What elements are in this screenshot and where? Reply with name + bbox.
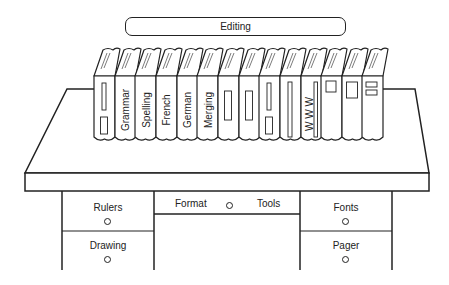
book-shape bbox=[218, 44, 239, 142]
drawer-fonts[interactable]: Fonts bbox=[300, 191, 392, 231]
book-shape bbox=[259, 44, 280, 142]
drawer-rulers-label: Rulers bbox=[62, 202, 154, 213]
book-7[interactable] bbox=[218, 44, 239, 142]
book-shape bbox=[156, 44, 177, 142]
drawer-rulers[interactable]: Rulers bbox=[62, 191, 154, 231]
book-shape bbox=[280, 44, 301, 142]
book-1[interactable] bbox=[94, 44, 115, 142]
book-shape bbox=[177, 44, 198, 142]
drawer-drawing-label: Drawing bbox=[62, 240, 154, 251]
book-french[interactable]: French bbox=[156, 44, 177, 142]
knob-icon bbox=[104, 256, 111, 263]
desk-scene: Editing GrammarSpellingFrenchGermanMergi… bbox=[0, 0, 449, 285]
book-shape bbox=[362, 44, 383, 142]
book-8[interactable] bbox=[239, 44, 260, 142]
book-12[interactable] bbox=[321, 44, 342, 142]
drawer-pager[interactable]: Pager bbox=[300, 231, 392, 270]
book-grammar[interactable]: Grammar bbox=[115, 44, 136, 142]
drawer-format-label: Format bbox=[175, 198, 207, 209]
book-14[interactable] bbox=[362, 44, 383, 142]
book-shape bbox=[115, 44, 136, 142]
book-merging[interactable]: Merging bbox=[197, 44, 218, 142]
book-13[interactable] bbox=[342, 44, 363, 142]
drawer-tools-label: Tools bbox=[257, 198, 280, 209]
drawer-drawing[interactable]: Drawing bbox=[62, 231, 154, 270]
editing-label: Editing bbox=[220, 21, 251, 32]
book-shape bbox=[301, 44, 322, 142]
book-german[interactable]: German bbox=[177, 44, 198, 142]
editing-button[interactable]: Editing bbox=[125, 17, 346, 36]
knob-icon bbox=[226, 202, 233, 209]
book-shape bbox=[197, 44, 218, 142]
book-shape bbox=[239, 44, 260, 142]
knob-icon bbox=[104, 218, 111, 225]
knob-icon bbox=[342, 256, 349, 263]
book-10[interactable] bbox=[280, 44, 301, 142]
drawer-pager-label: Pager bbox=[300, 240, 392, 251]
drawer-fonts-label: Fonts bbox=[300, 202, 392, 213]
book-spelling[interactable]: Spelling bbox=[135, 44, 156, 142]
book-shape bbox=[94, 44, 115, 142]
book-shape bbox=[135, 44, 156, 142]
book-shape bbox=[321, 44, 342, 142]
book-shape bbox=[342, 44, 363, 142]
drawer-format-tools[interactable]: Format Tools bbox=[154, 191, 300, 214]
book-9[interactable] bbox=[259, 44, 280, 142]
knob-icon bbox=[342, 218, 349, 225]
book-www[interactable]: W W W bbox=[301, 44, 322, 142]
